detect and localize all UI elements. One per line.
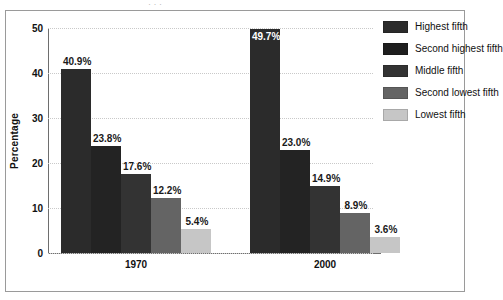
bar-group-1970: 40.9% 23.8% 17.6% 12.2% 5.4% [61,28,211,253]
legend-label: Second lowest fifth [415,88,499,98]
legend-swatch-icon [383,109,408,121]
bar-value-label: 23.8% [93,134,121,144]
legend-swatch-icon [383,21,408,33]
legend-label: Lowest fifth [415,110,466,120]
y-tick-label-10: 10 [32,204,43,214]
y-tick-label-30: 30 [32,114,43,124]
bar-value-label: 3.6% [375,225,398,235]
legend-label: Middle fifth [415,66,463,76]
bar-value-label: 12.2% [153,186,181,196]
legend-item-second-lowest-fifth[interactable]: Second lowest fifth [383,86,463,99]
legend-label: Highest fifth [415,22,468,32]
cropped-title-artifact: · · · [148,0,268,6]
bar-2000-highest-fifth[interactable]: 49.7% [250,29,280,253]
bar-value-label: 40.9% [63,57,91,67]
bar-value-label: 8.9% [345,201,368,211]
bar-value-label: 14.9% [312,174,340,184]
bar-value-label: 17.6% [123,162,151,172]
bar-value-label: 23.0% [282,138,310,148]
legend-label: Second highest fifth [415,44,503,54]
bar-1970-second-highest-fifth[interactable]: 23.8% [91,146,121,253]
bar-value-label: 5.4% [186,217,209,227]
y-axis-title: Percentage [9,113,20,169]
x-tick-label-1970: 1970 [125,259,147,270]
legend-swatch-icon [383,65,408,77]
y-tick-label-40: 40 [32,69,43,79]
chart-legend: Highest fifth Second highest fifth Middl… [383,20,463,130]
bar-2000-second-highest-fifth[interactable]: 23.0% [280,150,310,254]
bar-2000-middle-fifth[interactable]: 14.9% [310,186,340,253]
legend-item-highest-fifth[interactable]: Highest fifth [383,20,463,33]
legend-swatch-icon [383,43,408,55]
legend-item-middle-fifth[interactable]: Middle fifth [383,64,463,77]
bar-1970-highest-fifth[interactable]: 40.9% [61,69,91,253]
gridline-0: 0 [48,253,373,254]
x-tick-label-2000: 2000 [314,259,336,270]
y-tick-label-0: 0 [37,249,43,259]
legend-swatch-icon [383,87,408,99]
legend-item-second-highest-fifth[interactable]: Second highest fifth [383,42,463,55]
plot-area: 0 10 20 30 40 50 40.9% 23.8% 17.6% [48,28,373,253]
bar-1970-second-lowest-fifth[interactable]: 12.2% [151,198,181,253]
bar-group-2000: 49.7% 23.0% 14.9% 8.9% 3.6% [250,28,400,253]
y-tick-label-20: 20 [32,159,43,169]
bar-1970-lowest-fifth[interactable]: 5.4% [181,229,211,253]
bar-2000-second-lowest-fifth[interactable]: 8.9% [340,213,370,253]
bar-1970-middle-fifth[interactable]: 17.6% [121,174,151,253]
y-tick-label-50: 50 [32,24,43,34]
legend-item-lowest-fifth[interactable]: Lowest fifth [383,108,463,121]
bar-value-label: 49.7% [252,32,280,42]
bar-2000-lowest-fifth[interactable]: 3.6% [370,237,400,253]
